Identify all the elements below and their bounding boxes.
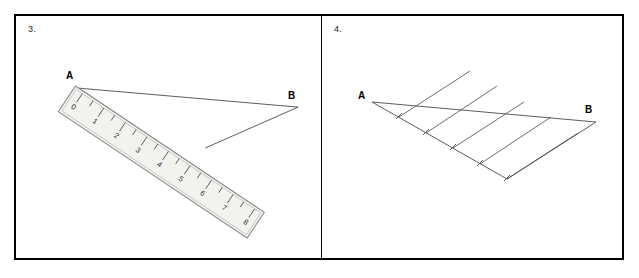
figure-root: 3. — [0, 0, 639, 278]
parallel-transversals — [399, 71, 578, 179]
panel-4-angle-lines — [372, 102, 596, 179]
ruler: 0 1 2 3 4 5 6 7 8 — [58, 86, 264, 238]
parallel-line — [453, 102, 524, 148]
segment-a-ray — [372, 102, 507, 179]
segment-a-to-b — [372, 102, 596, 122]
panel-3: 3. — [16, 16, 322, 258]
parallel-line — [507, 133, 578, 179]
panel-4-drawing — [322, 16, 622, 258]
segment-b-to-vertex — [205, 107, 298, 148]
figure-frame: 3. — [14, 14, 624, 260]
point-label-a-panel-3: A — [66, 70, 73, 81]
ruler-numbers: 0 1 2 3 4 5 6 7 8 — [69, 102, 250, 227]
point-label-b-panel-4: B — [585, 104, 592, 115]
segment-a-to-b — [79, 88, 298, 107]
panel-4: 4. — [322, 16, 622, 258]
point-label-a-panel-4: A — [358, 90, 365, 101]
panel-3-drawing: 0 1 2 3 4 5 6 7 8 — [16, 16, 321, 258]
point-label-b-panel-3: B — [288, 90, 295, 101]
